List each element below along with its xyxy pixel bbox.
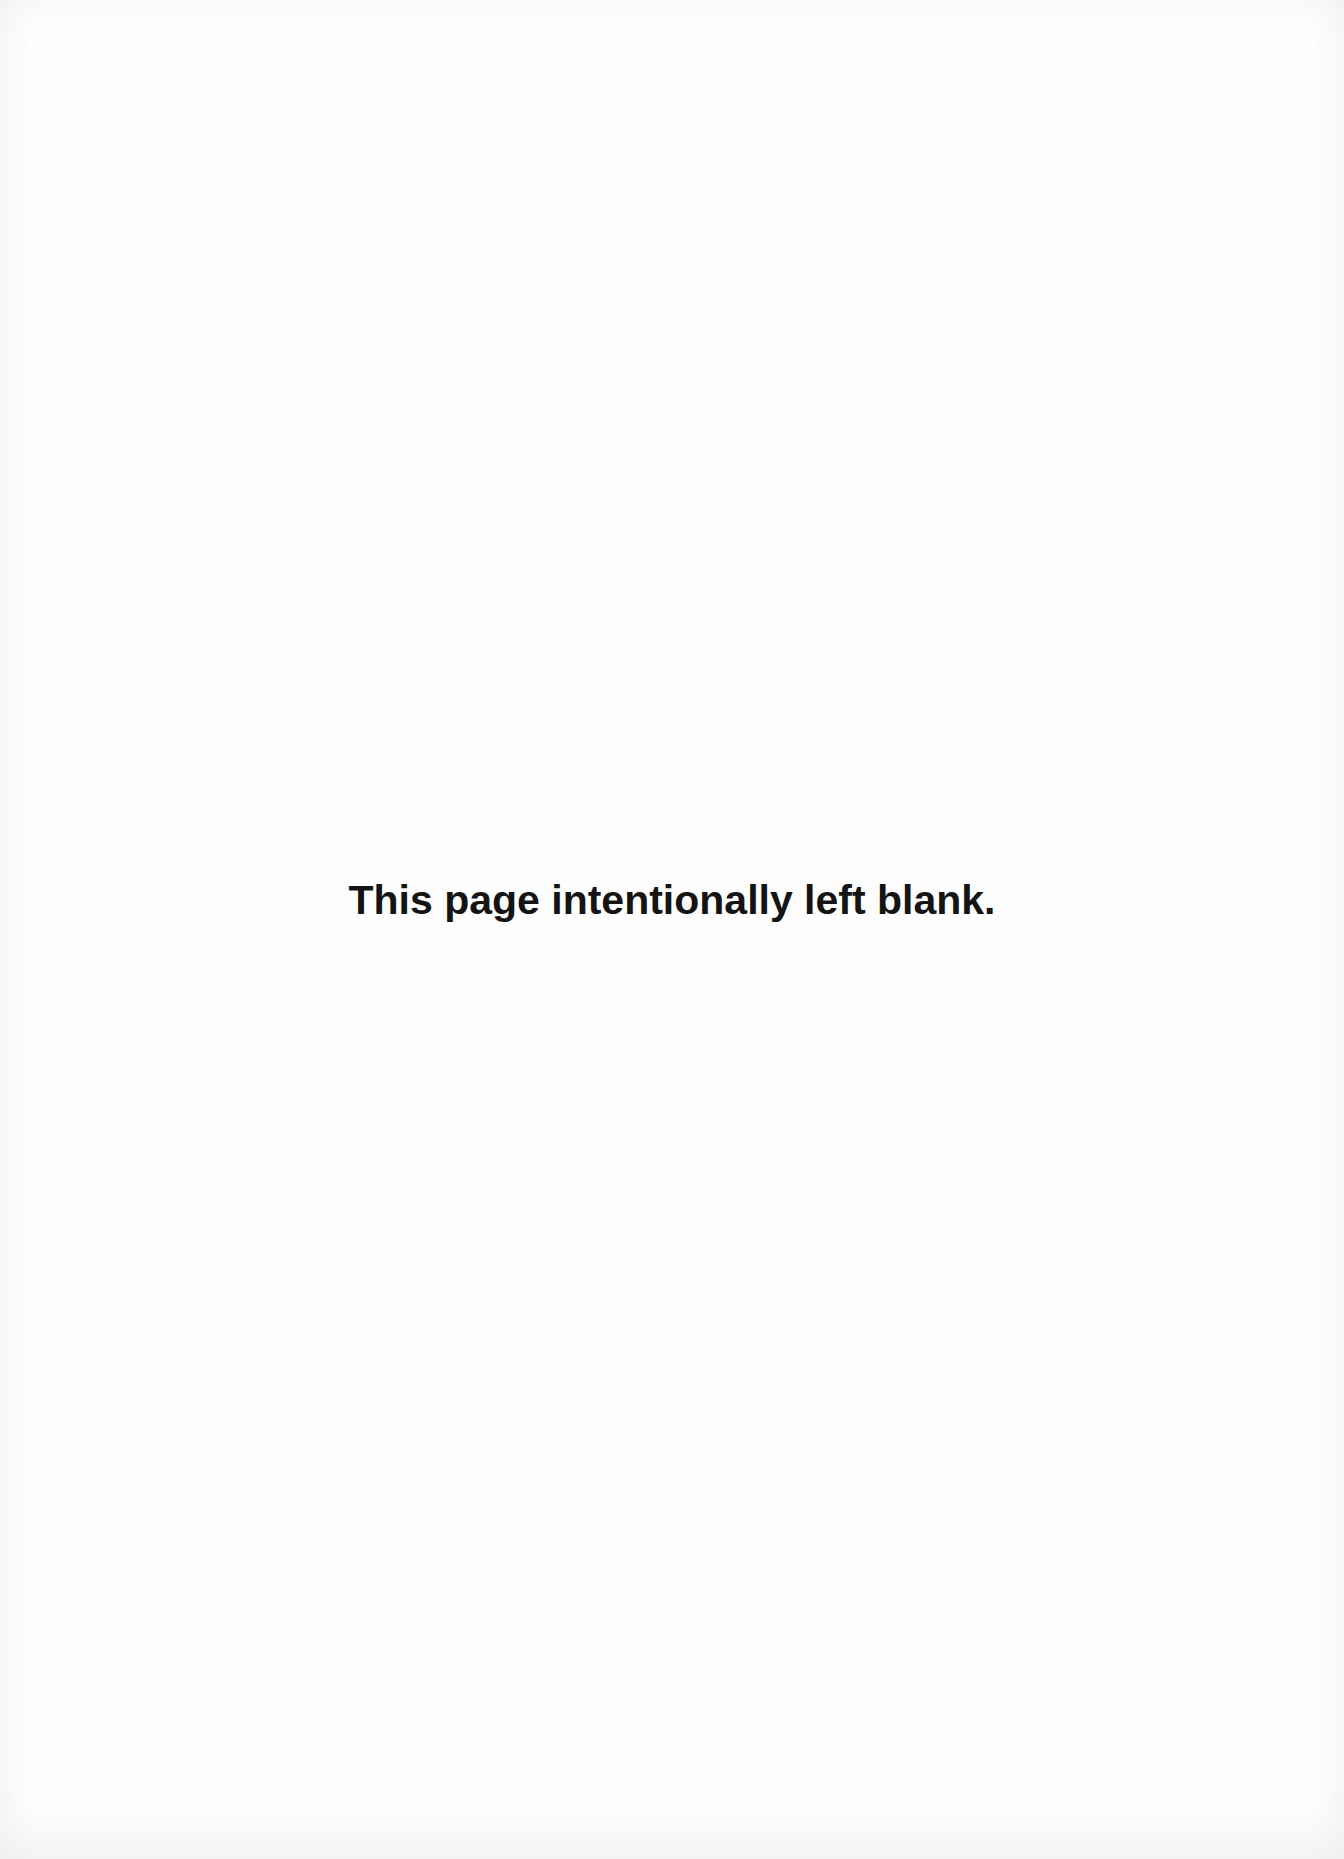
blank-page: This page intentionally left blank. [0, 0, 1344, 1859]
blank-page-notice: This page intentionally left blank. [0, 870, 1344, 930]
